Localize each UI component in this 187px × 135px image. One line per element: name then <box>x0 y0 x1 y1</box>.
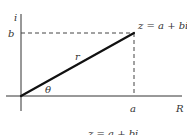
imaginary-axis-label: i <box>14 12 17 23</box>
b-label: b <box>8 28 14 39</box>
point-label: z = a + bi <box>137 20 187 31</box>
a-label: a <box>130 103 136 114</box>
caption: z = a + bi <box>87 128 138 135</box>
theta-label: θ <box>45 84 51 95</box>
real-axis-label: R <box>175 103 184 114</box>
complex-plane-diagram: i b z = a + bi r θ a R z = a + bi <box>0 0 187 135</box>
r-label: r <box>75 51 81 62</box>
vector-r <box>21 33 134 96</box>
